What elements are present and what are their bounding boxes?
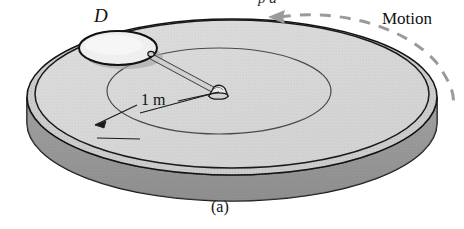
figure-caption: (a)	[211, 199, 229, 215]
motion-label: Motion	[382, 10, 432, 27]
rotating-disk-diagram	[0, 0, 464, 229]
figure-container: p a Motion D 1 m (a)	[0, 0, 464, 229]
clipped-top-text: p a	[258, 0, 277, 6]
radius-label: 1 m	[141, 92, 165, 108]
puck-d	[79, 31, 157, 65]
puck-label-d: D	[94, 6, 108, 25]
